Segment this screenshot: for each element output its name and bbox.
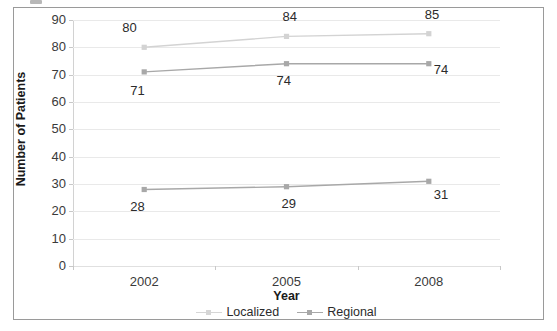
y-tick-mark-90 xyxy=(69,20,73,21)
gridline-0 xyxy=(73,266,500,267)
legend-entry-localized[interactable]: Localized xyxy=(196,305,279,319)
data-label: 31 xyxy=(434,188,448,201)
data-label: 85 xyxy=(425,8,439,21)
data-label: 28 xyxy=(130,200,144,213)
y-tick-label-70: 70 xyxy=(28,68,66,81)
x-tick-mark-1 xyxy=(215,266,216,270)
y-tick-label-90: 90 xyxy=(28,13,66,26)
x-tick-mark-2 xyxy=(358,266,359,270)
y-axis-line xyxy=(73,20,74,267)
data-label: 84 xyxy=(283,10,297,23)
y-tick-mark-30 xyxy=(69,184,73,185)
y-tick-mark-60 xyxy=(69,102,73,103)
legend-label: Regional xyxy=(327,305,376,319)
top-edge-artifact xyxy=(30,0,42,4)
gridline-30 xyxy=(73,184,500,185)
y-tick-label-0: 0 xyxy=(28,259,66,272)
data-label: 74 xyxy=(434,63,448,76)
x-tick-mark-0 xyxy=(73,266,74,270)
data-label: 71 xyxy=(130,84,144,97)
gridline-60 xyxy=(73,102,500,103)
y-tick-label-30: 30 xyxy=(28,177,66,190)
data-label: 80 xyxy=(122,21,136,34)
x-axis-title: Year xyxy=(73,289,500,303)
y-tick-label-40: 40 xyxy=(28,150,66,163)
legend-swatch-icon xyxy=(297,308,323,317)
y-tick-label-80: 80 xyxy=(28,40,66,53)
y-tick-label-20: 20 xyxy=(28,204,66,217)
legend-entry-regional[interactable]: Regional xyxy=(297,305,376,319)
data-label: 29 xyxy=(282,197,296,210)
y-tick-mark-20 xyxy=(69,211,73,212)
y-tick-mark-40 xyxy=(69,157,73,158)
y-tick-mark-70 xyxy=(69,75,73,76)
y-tick-label-50: 50 xyxy=(28,122,66,135)
legend-label: Localized xyxy=(226,305,279,319)
legend-swatch-icon xyxy=(196,308,222,317)
y-tick-mark-80 xyxy=(69,47,73,48)
x-tick-label-2002: 2002 xyxy=(104,274,184,289)
gridline-80 xyxy=(73,47,500,48)
data-label: 74 xyxy=(277,74,291,87)
y-tick-label-10: 10 xyxy=(28,232,66,245)
x-tick-mark-3 xyxy=(500,266,501,270)
gridline-50 xyxy=(73,129,500,130)
gridline-10 xyxy=(73,239,500,240)
x-tick-label-2005: 2005 xyxy=(247,274,327,289)
gridline-40 xyxy=(73,157,500,158)
y-axis-title: Number of Patients xyxy=(14,44,28,214)
x-tick-label-2008: 2008 xyxy=(389,274,469,289)
y-tick-label-60: 60 xyxy=(28,95,66,108)
y-tick-mark-10 xyxy=(69,239,73,240)
y-tick-mark-50 xyxy=(69,129,73,130)
chart-legend: LocalizedRegional xyxy=(73,305,500,319)
